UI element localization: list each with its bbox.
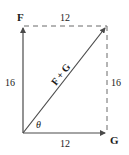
vector-f-label: F [17, 11, 24, 23]
side-left-label: 16 [5, 77, 15, 88]
side-bottom-label: 12 [60, 138, 70, 149]
side-top-label: 12 [60, 12, 70, 23]
vector-g-label: G [110, 134, 119, 146]
vector-diagram: F G 12 12 16 16 F + G θ [0, 0, 129, 155]
angle-theta-label: θ [36, 119, 41, 130]
vector-resultant-arrow [23, 28, 105, 133]
side-right-label: 16 [111, 77, 121, 88]
